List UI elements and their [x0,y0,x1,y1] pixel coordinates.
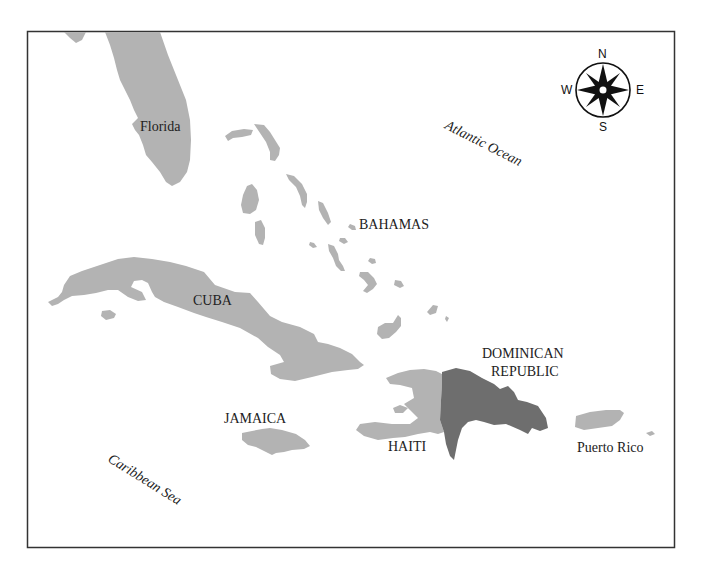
compass-east: E [636,83,644,97]
label-cuba: CUBA [193,293,233,308]
label-haiti: HAITI [388,439,426,454]
label-bahamas: BAHAMAS [359,217,429,232]
compass-north: N [598,47,607,61]
label-florida: Florida [140,119,181,134]
compass-west: W [561,83,573,97]
label-jamaica: JAMAICA [224,411,287,426]
compass-south: S [599,120,607,134]
caribbean-map: Florida Atlantic Ocean BAHAMAS CUBA DOMI… [0,0,701,577]
compass-rose-icon [576,63,630,117]
label-dominican-republic-line1: DOMINICAN [482,346,564,361]
label-dominican-republic-line2: REPUBLIC [491,364,559,379]
label-puerto-rico: Puerto Rico [577,440,644,455]
